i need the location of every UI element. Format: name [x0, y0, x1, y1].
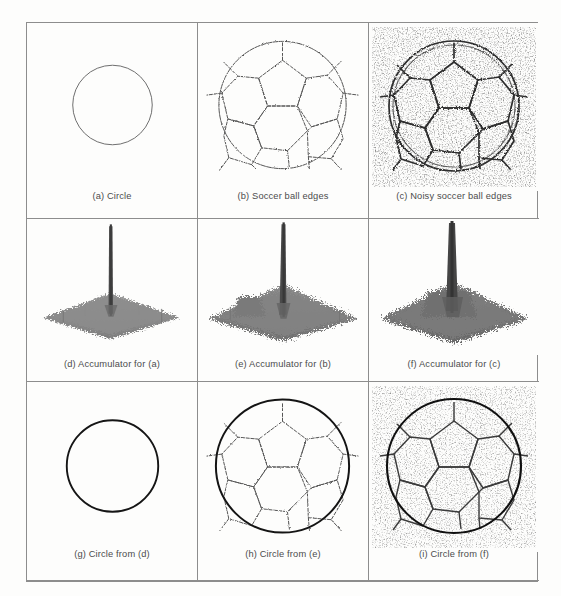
panel-g-caption: (g) Circle from (d) [27, 549, 197, 560]
panel-d: (d) Accumulator for (a) [27, 219, 198, 382]
panel-c-artwork [369, 23, 539, 191]
panel-b: (b) Soccer ball edges [198, 23, 369, 219]
accumulator-surface-e-graphic [198, 219, 368, 355]
panel-c: (c) Noisy soccer ball edges [369, 23, 539, 219]
accumulator-surface-f-graphic [369, 219, 539, 355]
panel-e-caption: (e) Accumulator for (b) [198, 359, 368, 370]
soccer-ball-edges-graphic [198, 23, 368, 191]
panel-grid: (a) Circle [26, 22, 538, 582]
noisy-soccer-ball-edges-graphic [369, 23, 539, 191]
detected-circle-i-graphic [369, 382, 539, 552]
panel-i: (i) Circle from (f) [369, 382, 539, 581]
panel-h: (h) Circle from (e) [198, 382, 369, 581]
panel-g: (g) Circle from (d) [27, 382, 198, 581]
panel-a: (a) Circle [27, 23, 198, 219]
panel-e: (e) Accumulator for (b) [198, 219, 369, 382]
panel-f-artwork [369, 219, 539, 355]
panel-g-artwork [27, 382, 197, 552]
panel-i-caption: (i) Circle from (f) [369, 549, 539, 560]
panel-h-caption: (h) Circle from (e) [198, 549, 368, 560]
panel-f-caption: (f) Accumulator for (c) [369, 359, 539, 370]
panel-f: (f) Accumulator for (c) [369, 219, 539, 382]
detected-circle-h-graphic [198, 382, 368, 552]
panel-h-artwork [198, 382, 368, 552]
panel-c-caption: (c) Noisy soccer ball edges [369, 191, 539, 202]
accumulator-surface-d-graphic [27, 219, 197, 355]
circle-outline-graphic [27, 23, 197, 191]
panel-a-caption: (a) Circle [27, 191, 197, 202]
panel-a-artwork [27, 23, 197, 191]
panel-e-artwork [198, 219, 368, 355]
panel-i-artwork [369, 382, 539, 552]
figure-nine-panel-grid: (a) Circle [0, 0, 561, 596]
panel-b-artwork [198, 23, 368, 191]
panel-b-caption: (b) Soccer ball edges [198, 191, 368, 202]
detected-circle-g-graphic [27, 382, 197, 552]
panel-d-artwork [27, 219, 197, 355]
panel-d-caption: (d) Accumulator for (a) [27, 359, 197, 370]
